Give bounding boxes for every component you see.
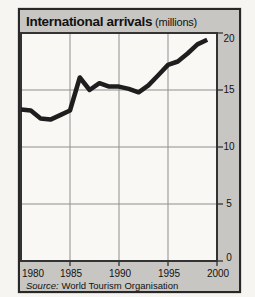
y-axis-tick-label-20: 20 [219,34,239,44]
y-axis-tick-label-10: 10 [219,142,239,152]
x-axis-tick-label-1980: 1980 [17,269,49,279]
chart-panel: International arrivals (millions) 20 15 … [18,8,241,293]
x-axis-tick-label-1995: 1995 [153,269,185,279]
line-chart-plot [20,10,239,291]
source-caption: Source: World Tourism Organisation [26,280,178,291]
y-axis-tick-label-0: 0 [219,253,239,263]
source-label: Source: [26,280,59,291]
x-axis-tick-label-1990: 1990 [104,269,136,279]
x-axis-tick-label-2000: 2000 [202,269,234,279]
scanned-chart-page: International arrivals (millions) 20 15 … [0,0,255,297]
source-text: World Tourism Organisation [59,280,179,291]
x-axis-tick-label-1985: 1985 [55,269,87,279]
y-axis-tick-label-15: 15 [219,85,239,95]
y-axis-tick-label-5: 5 [219,199,239,209]
